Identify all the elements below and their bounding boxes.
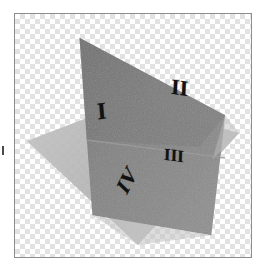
quadrant-label-1: I (96, 98, 107, 123)
intersecting-planes-diagram (15, 14, 251, 257)
left-edge-tick-mark (2, 146, 4, 155)
vertical-plane-upper-shading (79, 38, 225, 147)
figure-frame: I II III IV (14, 13, 252, 258)
quadrant-label-3: III (164, 146, 184, 165)
quadrant-label-2: II (170, 76, 188, 100)
